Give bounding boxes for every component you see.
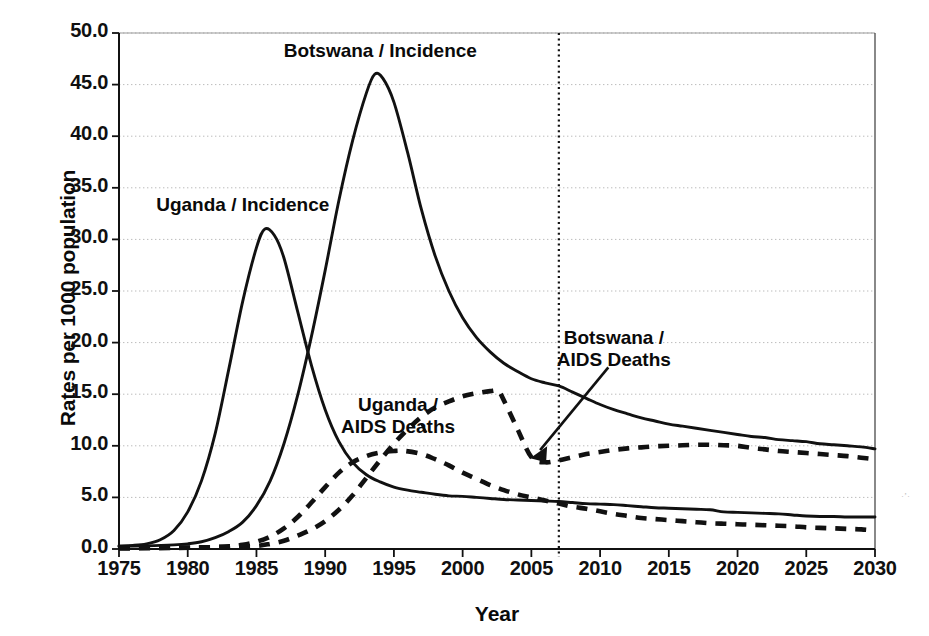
annotation-line: AIDS Deaths xyxy=(341,416,455,438)
y-tick-label: 5.0 xyxy=(22,483,108,506)
uganda-aids-deaths-label: Uganda /AIDS Deaths xyxy=(341,394,455,437)
x-tick-label: 2030 xyxy=(835,557,915,580)
series-line-uganda-incidence xyxy=(119,228,875,545)
annotation-line: Uganda / xyxy=(341,394,455,416)
botswana-aids-deaths-label: Botswana /AIDS Deaths xyxy=(557,327,671,370)
annotation-line: Uganda / Incidence xyxy=(156,194,329,216)
y-tick-label: 0.0 xyxy=(22,535,108,558)
y-tick-label: 35.0 xyxy=(22,174,108,197)
uganda-incidence-label: Uganda / Incidence xyxy=(156,194,329,216)
scan-artifact: ·ʼ· xyxy=(901,492,910,501)
y-tick-label: 40.0 xyxy=(22,122,108,145)
y-tick-label: 10.0 xyxy=(22,432,108,455)
botswana-incidence-label: Botswana / Incidence xyxy=(284,40,477,62)
series-line-botswana-incidence xyxy=(119,73,875,546)
annotation-leader-line xyxy=(540,367,608,450)
y-tick-label: 15.0 xyxy=(22,380,108,403)
chart-plot-area xyxy=(0,0,929,636)
annotation-line: Botswana / Incidence xyxy=(284,40,477,62)
y-tick-label: 45.0 xyxy=(22,71,108,94)
y-tick-label: 50.0 xyxy=(22,19,108,42)
x-axis-title: Year xyxy=(119,602,875,626)
y-tick-label: 25.0 xyxy=(22,277,108,300)
annotation-arrow-head xyxy=(530,446,547,462)
y-tick-label: 20.0 xyxy=(22,329,108,352)
y-tick-label: 30.0 xyxy=(22,225,108,248)
chart-figure: Rates per 1000 population Year 0.05.010.… xyxy=(0,0,929,636)
annotation-line: Botswana / xyxy=(557,327,671,349)
annotation-line: AIDS Deaths xyxy=(557,349,671,371)
